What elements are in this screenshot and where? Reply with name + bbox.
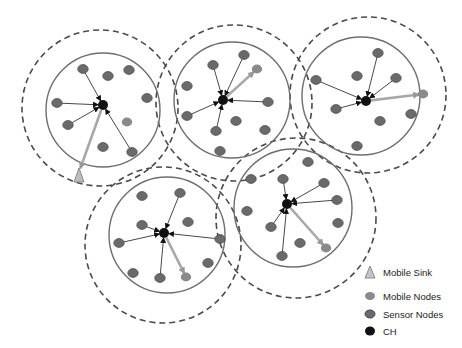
sensor-node bbox=[352, 72, 362, 81]
sensor-node bbox=[127, 148, 137, 157]
link-arrow bbox=[169, 234, 220, 239]
sensor-node bbox=[373, 49, 383, 58]
sensor-node bbox=[215, 235, 225, 244]
sensor-node bbox=[128, 269, 138, 278]
sensor-node bbox=[277, 252, 287, 261]
sensor-node bbox=[266, 223, 276, 232]
mobile-node bbox=[181, 273, 191, 282]
sensor-node bbox=[239, 51, 249, 60]
mobile-node bbox=[252, 65, 262, 74]
sensor-node bbox=[260, 126, 270, 135]
cluster-head bbox=[361, 96, 371, 106]
sensor-node bbox=[63, 121, 73, 130]
sensor-node bbox=[332, 196, 342, 205]
sensor-node bbox=[333, 219, 343, 228]
sensor-node bbox=[142, 94, 152, 103]
sensor-node bbox=[352, 142, 362, 151]
sensor-node bbox=[52, 99, 62, 108]
sensor-node bbox=[137, 192, 147, 201]
sensor-node bbox=[183, 218, 193, 227]
legend-item-ch: CH bbox=[363, 323, 397, 339]
sensor-node bbox=[211, 127, 221, 136]
mobile-node-icon bbox=[363, 289, 377, 303]
sensor-node-icon bbox=[363, 307, 377, 321]
link-arrow bbox=[160, 238, 164, 278]
sensor-node bbox=[303, 158, 313, 167]
legend-item-sensor-nodes: Sensor Nodes bbox=[363, 306, 443, 322]
legend-label: Mobile Nodes bbox=[383, 291, 441, 302]
sensor-node bbox=[242, 207, 252, 216]
legend-label: Mobile Sink bbox=[383, 267, 432, 278]
sensor-node bbox=[295, 239, 305, 248]
sensor-node bbox=[263, 98, 273, 107]
cluster-head bbox=[159, 228, 169, 238]
legend-label: Sensor Nodes bbox=[383, 309, 443, 320]
cluster-boundary-layer bbox=[46, 37, 420, 293]
sensor-node bbox=[98, 143, 108, 152]
legend-label: CH bbox=[383, 326, 397, 337]
link-arrow bbox=[291, 183, 324, 202]
sensor-node bbox=[182, 82, 192, 91]
cluster-head bbox=[98, 100, 108, 110]
sensor-node bbox=[182, 112, 192, 121]
sensor-node bbox=[375, 117, 385, 126]
mobile-link-arrow bbox=[290, 208, 323, 245]
link-arrow bbox=[83, 69, 101, 101]
mobile-link-arrow bbox=[166, 237, 184, 273]
sensor-node bbox=[231, 117, 241, 126]
link-arrow bbox=[282, 209, 287, 256]
sensor-node bbox=[215, 147, 225, 156]
sensor-node bbox=[331, 105, 341, 114]
mobile-link-arrow bbox=[80, 110, 101, 169]
link-arrow bbox=[119, 234, 159, 243]
range-circle bbox=[216, 138, 376, 298]
link-arrow bbox=[57, 103, 98, 105]
legend-item-mobile-sink: Mobile Sink bbox=[363, 264, 432, 280]
link-arrow bbox=[367, 53, 378, 96]
links-layer bbox=[57, 53, 419, 278]
sensor-node bbox=[208, 61, 218, 70]
sensor-node bbox=[124, 66, 134, 75]
cluster-head bbox=[282, 199, 292, 209]
sensor-node bbox=[391, 74, 401, 83]
link-arrow bbox=[106, 109, 132, 152]
sensor-node bbox=[319, 179, 329, 188]
sensor-node bbox=[406, 110, 416, 119]
cluster-circle bbox=[234, 149, 352, 267]
sensor-node bbox=[155, 274, 165, 283]
mobile-node bbox=[418, 90, 428, 99]
sensor-node bbox=[114, 239, 124, 248]
link-arrow bbox=[166, 193, 180, 228]
link-arrow bbox=[228, 100, 268, 102]
link-arrow bbox=[292, 200, 337, 204]
link-arrow bbox=[316, 80, 361, 99]
mobile-link-arrow bbox=[371, 94, 419, 100]
sensor-node bbox=[103, 72, 113, 81]
cluster-head bbox=[218, 95, 228, 105]
sensor-node bbox=[203, 259, 213, 268]
sensor-node bbox=[246, 175, 256, 184]
sensor-node bbox=[175, 189, 185, 198]
sensor-node bbox=[278, 175, 288, 184]
sensor-node bbox=[78, 65, 88, 74]
mobile-node bbox=[122, 118, 132, 127]
mobile-node bbox=[321, 244, 331, 253]
triangle-icon bbox=[363, 265, 377, 279]
sensor-node bbox=[137, 221, 147, 230]
mobile-sink-layer bbox=[74, 168, 84, 182]
cluster-head-icon bbox=[363, 324, 377, 338]
mobile-sink-icon bbox=[74, 168, 84, 182]
legend-item-mobile-nodes: Mobile Nodes bbox=[363, 288, 441, 304]
sensor-node bbox=[311, 76, 321, 85]
